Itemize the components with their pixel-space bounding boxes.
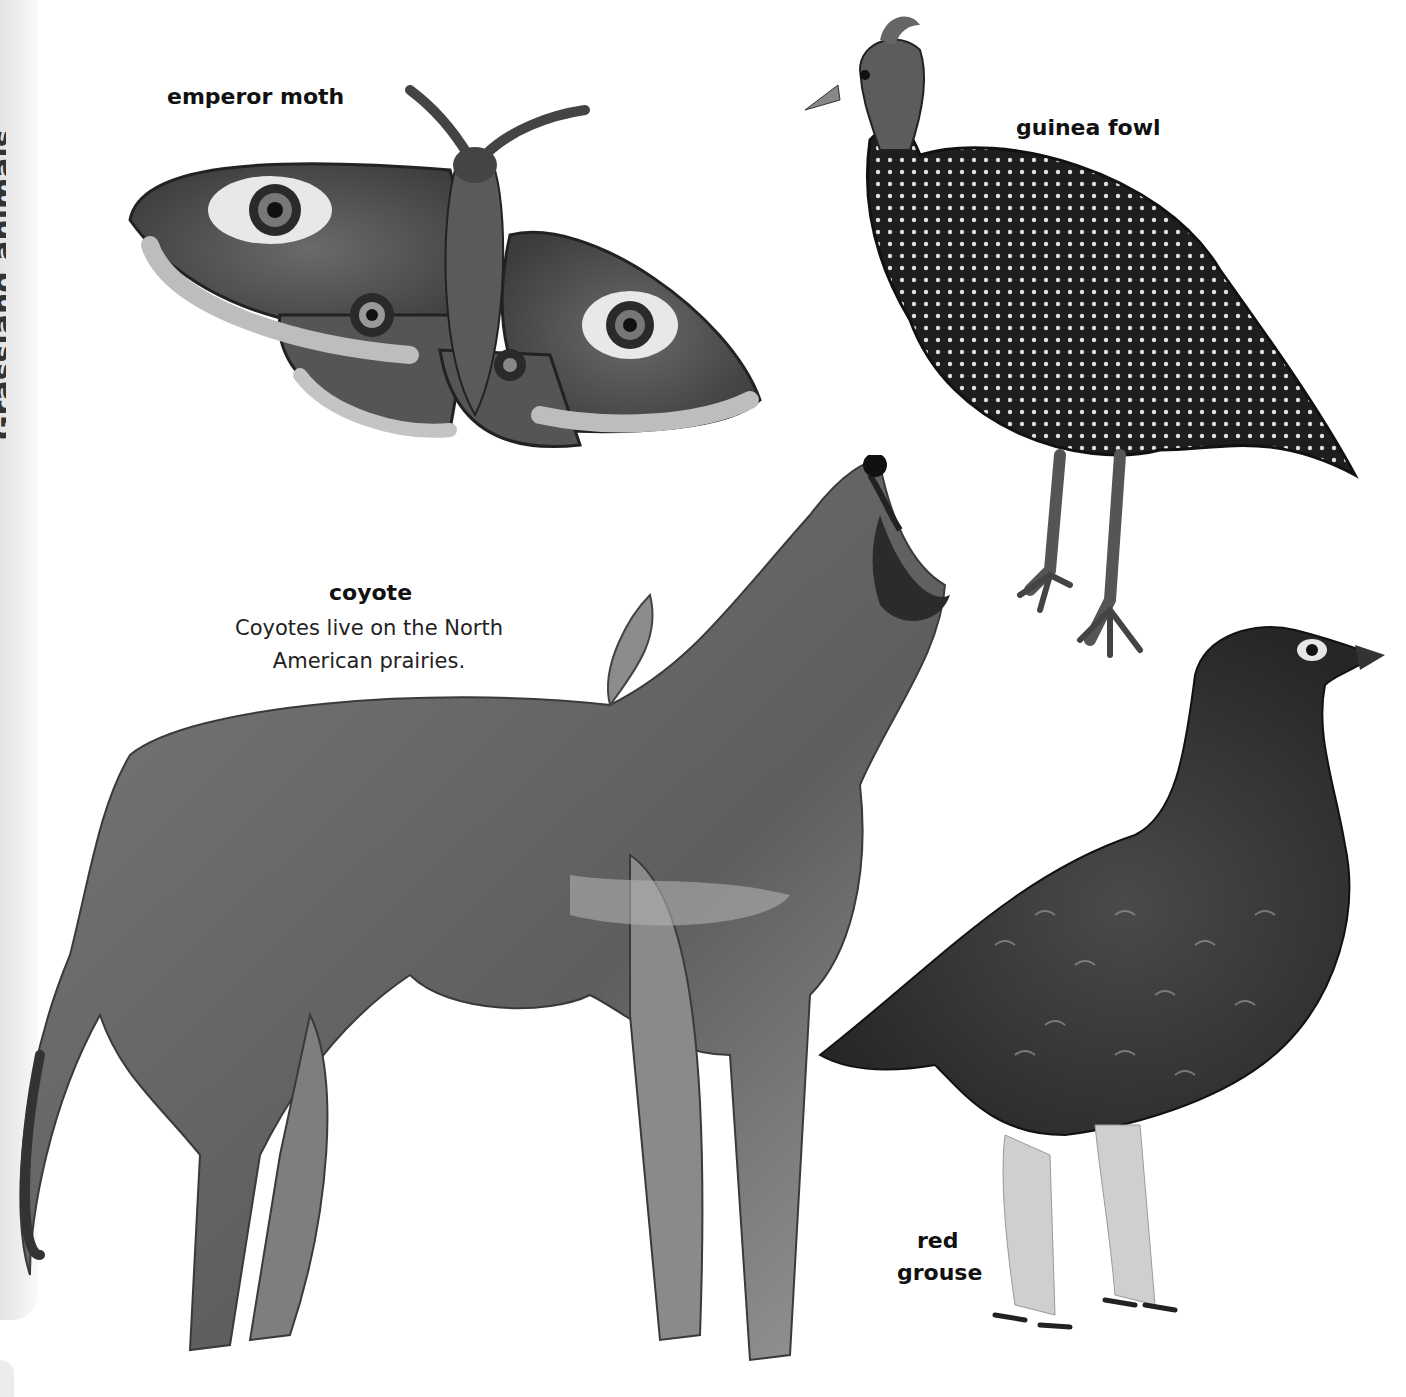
red-grouse-illustration [815,615,1390,1345]
red-grouse-label-line-2: grouse [897,1260,982,1286]
coyote-caption-line-1: Coyotes live on the North [224,615,514,642]
coyote-caption-line-2: American prairies. [224,648,514,675]
red-grouse-label-line-1: red [917,1228,959,1254]
emperor-moth-label: emperor moth [167,84,344,110]
side-panel-title: Grassland animals [0,20,6,440]
emperor-moth-illustration [110,85,790,465]
coyote-label: coyote [329,580,412,606]
guinea-fowl-label: guinea fowl [1016,115,1161,141]
